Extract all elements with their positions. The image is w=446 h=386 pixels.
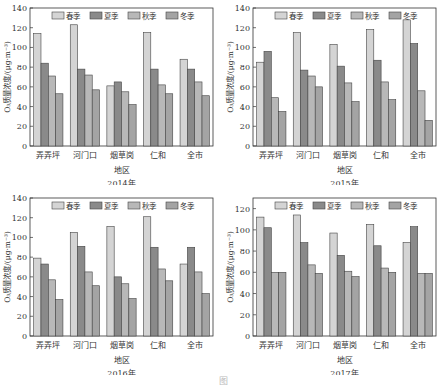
y-tick-label: 20 — [17, 122, 27, 131]
x-axis-label: 地区 — [337, 355, 353, 365]
bar — [293, 215, 300, 336]
y-tick-label: 140 — [12, 194, 27, 203]
y-tick-label: 20 — [240, 122, 250, 131]
y-tick-label: 0 — [22, 142, 27, 151]
legend-label: 冬季 — [403, 11, 418, 21]
bar — [388, 272, 395, 336]
bar — [257, 62, 264, 146]
bar — [41, 63, 48, 146]
y-tick-label: 100 — [12, 43, 27, 52]
x-tick-label: 仁和 — [150, 340, 166, 350]
chart-2015: 020406080100120140O₃质量浓度/(μg·m⁻³)弄弄坪河门口烟… — [223, 0, 446, 185]
y-tick-label: 40 — [240, 290, 250, 299]
y-axis-label: O₃质量浓度/(μg·m⁻³) — [2, 41, 12, 113]
y-tick-label: 100 — [235, 43, 250, 52]
bar — [381, 82, 388, 146]
x-tick-label: 河门口 — [73, 340, 97, 350]
bar — [85, 75, 92, 146]
legend-swatch — [128, 12, 140, 19]
y-tick-label: 80 — [17, 253, 27, 262]
legend-swatch — [389, 202, 401, 209]
bar — [85, 272, 92, 336]
bar — [330, 233, 337, 336]
x-tick-label: 弄弄坪 — [259, 151, 283, 160]
bar — [425, 120, 432, 146]
chart-2016: 020406080100120140O₃质量浓度/(μg·m⁻³)弄弄坪河门口烟… — [0, 190, 223, 375]
legend-label: 冬季 — [180, 201, 195, 211]
bar — [330, 44, 337, 146]
bar — [279, 272, 286, 336]
x-tick-label: 弄弄坪 — [36, 341, 60, 350]
bar — [114, 277, 121, 336]
y-tick-label: 120 — [235, 24, 250, 33]
legend-label: 秋季 — [142, 11, 157, 21]
bar — [410, 227, 417, 336]
legend-label: 春季 — [289, 201, 304, 211]
bar — [129, 105, 136, 146]
bar — [151, 69, 158, 146]
y-axis-label: O₃质量浓度/(μg·m⁻³) — [225, 41, 235, 113]
chart-2014: 020406080100120140O₃质量浓度/(μg·m⁻³)弄弄坪河门口烟… — [0, 0, 223, 185]
y-tick-label: 120 — [235, 205, 250, 214]
bar — [92, 286, 99, 336]
bar — [388, 100, 395, 146]
bar — [352, 102, 359, 146]
legend-label: 夏季 — [327, 201, 342, 211]
chart-title: 2015年 — [330, 178, 358, 185]
bar — [70, 25, 77, 146]
bar — [271, 272, 278, 336]
y-tick-label: 40 — [17, 293, 27, 302]
bar — [34, 258, 41, 336]
bar — [122, 284, 129, 336]
bar — [78, 246, 85, 336]
legend-swatch — [351, 202, 363, 209]
figure-caption: 图 — [0, 374, 446, 386]
bar — [158, 85, 165, 146]
legend-label: 秋季 — [365, 201, 380, 211]
legend-label: 春季 — [289, 11, 304, 21]
y-tick-label: 80 — [240, 63, 250, 72]
bar — [374, 246, 381, 336]
bar — [352, 277, 359, 336]
y-tick-label: 60 — [17, 83, 27, 92]
bar — [56, 300, 63, 336]
y-tick-label: 80 — [240, 247, 250, 256]
x-tick-label: 弄弄坪 — [259, 341, 283, 350]
bar — [315, 273, 322, 336]
bar — [34, 34, 41, 146]
y-tick-label: 60 — [240, 268, 250, 277]
bar — [107, 86, 114, 146]
legend-swatch — [275, 12, 287, 19]
x-tick-label: 弄弄坪 — [36, 151, 60, 160]
bar — [114, 82, 121, 146]
y-tick-label: 100 — [235, 226, 250, 235]
bar — [366, 30, 373, 146]
bar — [187, 69, 194, 146]
bar — [48, 280, 55, 336]
x-axis-label: 地区 — [114, 355, 130, 365]
x-tick-label: 全市 — [410, 340, 426, 350]
bar — [366, 225, 373, 336]
legend-swatch — [389, 12, 401, 19]
legend-swatch — [313, 202, 325, 209]
bar — [418, 273, 425, 336]
y-tick-label: 40 — [17, 103, 27, 112]
y-tick-label: 120 — [12, 214, 27, 223]
bar — [78, 69, 85, 146]
bar — [301, 243, 308, 336]
bar — [143, 217, 150, 336]
bar — [308, 265, 315, 336]
y-tick-label: 60 — [240, 83, 250, 92]
bar — [301, 70, 308, 146]
bar — [195, 272, 202, 336]
x-axis-label: 地区 — [114, 165, 130, 175]
bar — [56, 94, 63, 146]
legend-swatch — [166, 12, 178, 19]
bar — [122, 92, 129, 146]
y-tick-label: 20 — [240, 311, 250, 320]
bar — [374, 60, 381, 146]
bar — [70, 233, 77, 337]
legend-swatch — [275, 202, 287, 209]
bar — [180, 59, 187, 146]
bar — [264, 51, 271, 146]
